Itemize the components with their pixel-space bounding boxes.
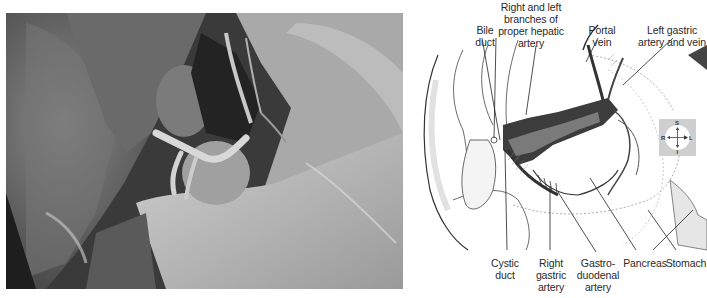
orientation-compass: S I R L: [659, 119, 696, 156]
compass-right-label: R: [661, 135, 665, 141]
label-stomach: Stomach: [664, 257, 707, 269]
label-cystic-duct: Cystic duct: [488, 257, 522, 281]
label-right-gastric-artery: Right gastric artery: [533, 257, 569, 293]
label-bile-duct: Bile duct: [468, 24, 502, 48]
label-pancreas: Pancreas: [622, 257, 668, 269]
label-gastroduodenal-artery: Gastro- duodenal artery: [575, 257, 621, 293]
compass-inferior-label: I: [677, 149, 679, 155]
photo-illustration: [6, 13, 403, 289]
compass-superior-label: S: [675, 120, 679, 126]
label-left-gastric: Left gastric artery and vein: [634, 24, 707, 48]
dissection-photo: [6, 13, 403, 289]
label-portal-vein: Portal vein: [582, 24, 622, 48]
compass-left-label: L: [689, 135, 693, 141]
label-hepatic-artery-branches: Right and left branches of proper hepati…: [498, 1, 564, 49]
